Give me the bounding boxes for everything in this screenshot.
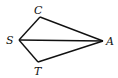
segment-at [38,41,103,62]
kite-diagram: C S A T [0,0,118,78]
vertex-label-a: A [105,35,114,48]
segment-sa-diagonal [19,40,103,41]
vertex-label-s: S [6,34,14,47]
segment-ca [40,17,103,41]
segment-ts [19,40,38,62]
vertex-label-t: T [34,65,43,78]
vertex-label-c: C [34,4,43,17]
segment-sc [19,17,40,40]
